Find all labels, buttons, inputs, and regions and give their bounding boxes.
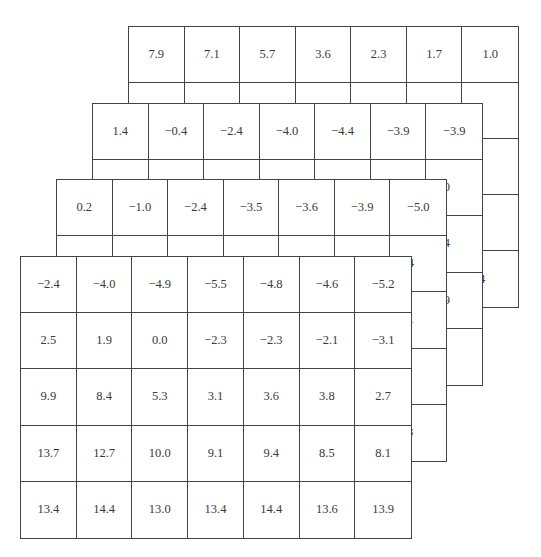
table-cell: −2.4 <box>21 257 77 313</box>
table-cell: 13.0 <box>132 482 188 538</box>
table-cell: −5.5 <box>188 257 244 313</box>
table-cell: −4.0 <box>260 104 316 160</box>
table-cell: 0.0 <box>132 313 188 369</box>
table-cell: −2.4 <box>204 104 260 160</box>
table-cell: 0.2 <box>57 180 113 236</box>
table-cell: 13.4 <box>21 482 77 538</box>
table-cell: 1.4 <box>93 104 149 160</box>
table-cell: 1.9 <box>77 313 133 369</box>
table-cell: 12.7 <box>77 426 133 482</box>
table-cell: 3.6 <box>244 369 300 425</box>
table-cell: −2.4 <box>168 180 224 236</box>
table-cell: −4.4 <box>315 104 371 160</box>
table-cell: 14.4 <box>77 482 133 538</box>
data-grid-layer-4: −2.4−4.0−4.9−5.5−4.8−4.6−5.22.51.90.0−2.… <box>20 256 412 539</box>
table-cell: −3.9 <box>426 104 482 160</box>
table-cell: −5.2 <box>355 257 411 313</box>
table-cell: −3.6 <box>279 180 335 236</box>
table-cell: −2.3 <box>188 313 244 369</box>
table-cell: −5.0 <box>390 180 446 236</box>
grid-layer-4: −2.4−4.0−4.9−5.5−4.8−4.6−5.22.51.90.0−2.… <box>21 257 411 538</box>
table-cell: 2.7 <box>355 369 411 425</box>
table-cell: 9.4 <box>244 426 300 482</box>
table-cell: 2.3 <box>351 27 407 83</box>
table-cell: 13.9 <box>355 482 411 538</box>
table-cell: 3.8 <box>300 369 356 425</box>
table-cell: 8.1 <box>355 426 411 482</box>
table-cell: 13.6 <box>300 482 356 538</box>
cropped-caption-fragment <box>0 548 541 557</box>
table-cell: 7.1 <box>185 27 241 83</box>
table-cell: −0.4 <box>149 104 205 160</box>
table-cell: 1.0 <box>462 27 518 83</box>
table-cell: 2.5 <box>21 313 77 369</box>
table-cell: 3.1 <box>188 369 244 425</box>
table-cell: −4.0 <box>77 257 133 313</box>
table-cell: 5.7 <box>240 27 296 83</box>
table-cell: −4.6 <box>300 257 356 313</box>
table-cell: 8.4 <box>77 369 133 425</box>
table-cell: −4.8 <box>244 257 300 313</box>
table-cell: −4.9 <box>132 257 188 313</box>
table-cell: −2.1 <box>300 313 356 369</box>
table-cell: 1.7 <box>407 27 463 83</box>
table-cell: 9.9 <box>21 369 77 425</box>
table-cell: 13.7 <box>21 426 77 482</box>
table-cell: 13.4 <box>188 482 244 538</box>
table-cell: −3.9 <box>335 180 391 236</box>
table-cell: 5.3 <box>132 369 188 425</box>
table-cell: −2.3 <box>244 313 300 369</box>
table-cell: 10.0 <box>132 426 188 482</box>
table-cell: 3.6 <box>296 27 352 83</box>
table-cell: −3.1 <box>355 313 411 369</box>
table-cell: −3.9 <box>371 104 427 160</box>
table-cell: 8.5 <box>300 426 356 482</box>
table-cell: −3.5 <box>224 180 280 236</box>
table-cell: 14.4 <box>244 482 300 538</box>
table-cell: −1.0 <box>113 180 169 236</box>
table-cell: 9.1 <box>188 426 244 482</box>
table-cell: 7.9 <box>129 27 185 83</box>
